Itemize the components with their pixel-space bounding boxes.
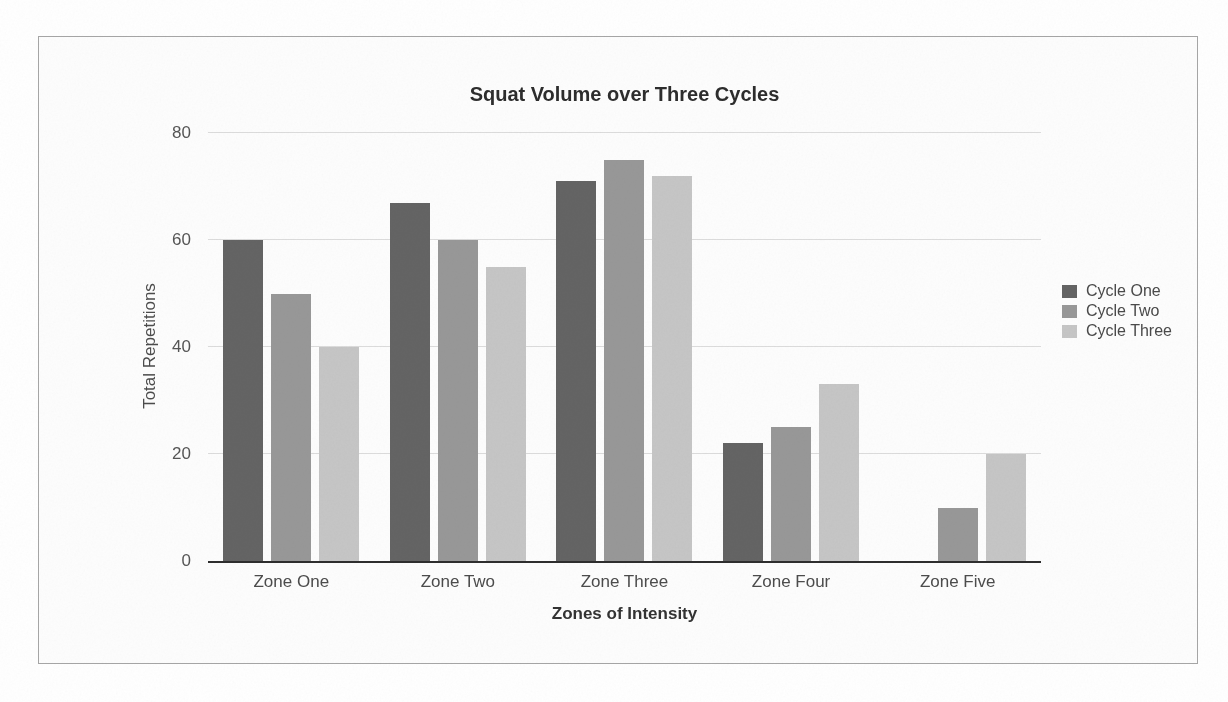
x-tick-zone-one: Zone One: [208, 572, 375, 592]
legend-item-cycle-one: Cycle One: [1062, 284, 1172, 298]
bar-group-zone-two: [375, 203, 542, 561]
bar-zone-two-cycle-three: [486, 267, 526, 561]
y-tick-60: 60: [172, 230, 191, 250]
bar-zone-four-cycle-two: [771, 427, 811, 561]
x-axis-title: Zones of Intensity: [208, 604, 1041, 624]
x-tick-zone-four: Zone Four: [708, 572, 875, 592]
bar-group-zone-four: [708, 384, 875, 561]
x-tick-zone-three: Zone Three: [541, 572, 708, 592]
bar-zone-one-cycle-two: [271, 294, 311, 562]
bar-zone-one-cycle-three: [319, 347, 359, 561]
legend: Cycle OneCycle TwoCycle Three: [1062, 284, 1172, 338]
y-tick-40: 40: [172, 337, 191, 357]
legend-swatch-cycle-two: [1062, 305, 1077, 318]
bar-zone-five-cycle-two: [938, 508, 978, 562]
y-tick-80: 80: [172, 123, 191, 143]
legend-swatch-cycle-three: [1062, 325, 1077, 338]
bar-zone-four-cycle-three: [819, 384, 859, 561]
bar-group-zone-three: [541, 160, 708, 561]
legend-swatch-cycle-one: [1062, 285, 1077, 298]
legend-item-cycle-two: Cycle Two: [1062, 304, 1172, 318]
legend-label-cycle-three: Cycle Three: [1086, 322, 1172, 340]
bar-zone-three-cycle-two: [604, 160, 644, 561]
plot-area: [208, 133, 1041, 563]
bar-zone-three-cycle-three: [652, 176, 692, 561]
bar-groups: [208, 133, 1041, 561]
bar-group-zone-one: [208, 240, 375, 561]
legend-label-cycle-one: Cycle One: [1086, 282, 1161, 300]
bar-zone-four-cycle-one: [723, 443, 763, 561]
y-tick-20: 20: [172, 444, 191, 464]
legend-item-cycle-three: Cycle Three: [1062, 324, 1172, 338]
bar-zone-five-cycle-three: [986, 454, 1026, 561]
y-tick-0: 0: [182, 551, 191, 571]
x-axis-ticks: Zone OneZone TwoZone ThreeZone FourZone …: [208, 572, 1041, 592]
bar-zone-one-cycle-one: [223, 240, 263, 561]
y-axis-ticks: 020406080: [39, 133, 191, 561]
bar-zone-three-cycle-one: [556, 181, 596, 561]
chart-frame: Squat Volume over Three Cycles Total Rep…: [38, 36, 1198, 664]
bar-zone-two-cycle-two: [438, 240, 478, 561]
chart-title: Squat Volume over Three Cycles: [208, 83, 1041, 106]
bar-zone-two-cycle-one: [390, 203, 430, 561]
x-tick-zone-two: Zone Two: [375, 572, 542, 592]
legend-label-cycle-two: Cycle Two: [1086, 302, 1160, 320]
x-tick-zone-five: Zone Five: [874, 572, 1041, 592]
bar-group-zone-five: [874, 454, 1041, 561]
